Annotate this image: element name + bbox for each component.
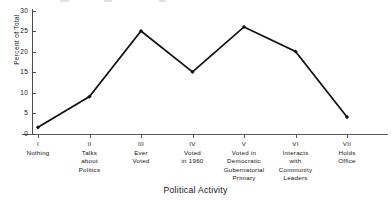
data-point-markers: [36, 25, 349, 130]
x-axis-category-vii: VIIHoldsOffice: [315, 140, 379, 166]
category-label-line: Office: [315, 157, 379, 165]
category-label-line: Holds: [315, 149, 379, 157]
category-roman-numeral: VII: [315, 140, 379, 148]
line-chart: Percent of Total 302520151050 INothingII…: [0, 0, 391, 203]
data-series-line: [38, 27, 347, 127]
category-label-line: Politics: [58, 166, 122, 174]
category-label-line: Leaders: [264, 174, 328, 182]
x-axis-label: Political Activity: [0, 185, 391, 195]
category-label-line: Community: [264, 166, 328, 174]
